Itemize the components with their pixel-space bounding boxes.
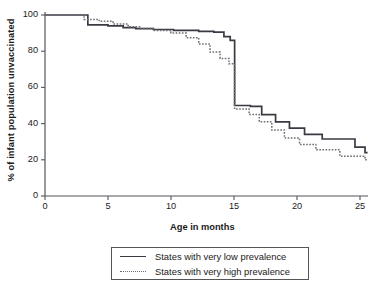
legend-label-high-prevalence: States with very high prevalence xyxy=(148,266,290,277)
chart-legend: States with very low prevalence States w… xyxy=(111,247,309,280)
legend-item-high-prevalence: States with very high prevalence xyxy=(118,264,290,279)
series-line-low-prevalence xyxy=(45,15,368,153)
chart-figure: % of infant population unvaccinated Age … xyxy=(0,0,376,284)
legend-line-dotted-icon xyxy=(118,268,148,276)
legend-item-low-prevalence: States with very low prevalence xyxy=(118,249,286,264)
plot-area xyxy=(0,0,376,284)
legend-line-solid-icon xyxy=(118,253,148,261)
legend-label-low-prevalence: States with very low prevalence xyxy=(148,251,286,262)
series-line-high-prevalence xyxy=(45,15,368,160)
